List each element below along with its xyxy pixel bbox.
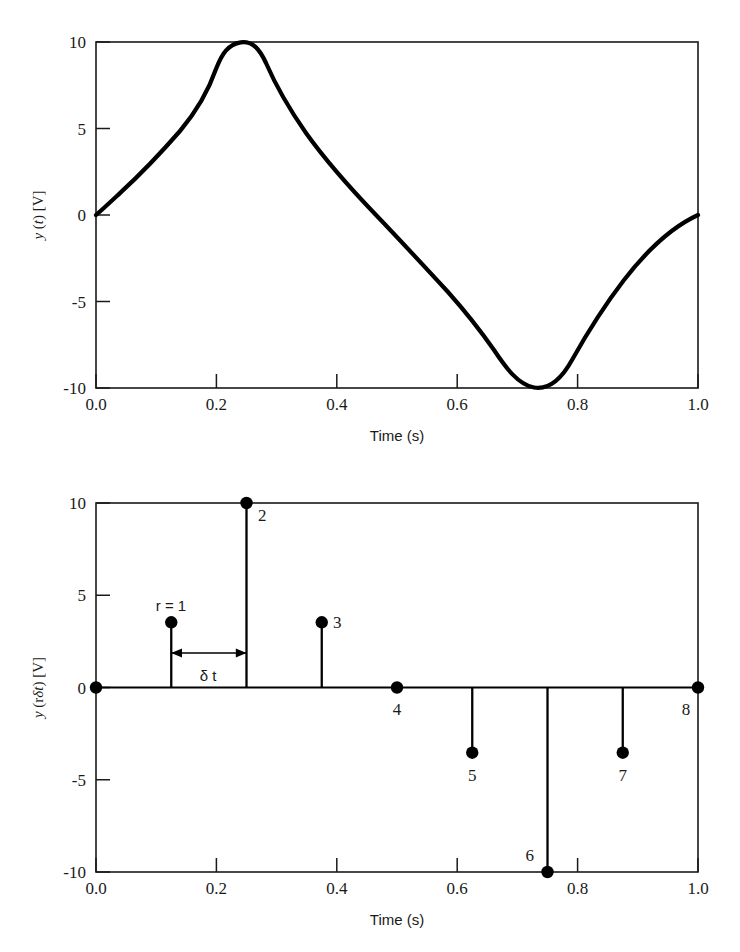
r-equals-1-label: r = 1 bbox=[156, 597, 186, 614]
svg-text:5: 5 bbox=[468, 766, 477, 785]
svg-text:0.2: 0.2 bbox=[206, 879, 227, 898]
x-tick-labels: 0.0 0.2 0.4 0.6 0.8 1.0 bbox=[85, 879, 708, 898]
svg-text:0.8: 0.8 bbox=[567, 395, 588, 414]
sample-point bbox=[165, 616, 177, 628]
y-tick-labels: 10 5 0 -5 -10 bbox=[63, 494, 86, 882]
sample-point bbox=[90, 681, 102, 693]
svg-text:0.4: 0.4 bbox=[326, 879, 348, 898]
delta-t-label: δ t bbox=[200, 667, 218, 684]
sample-point bbox=[466, 747, 478, 759]
svg-text:6: 6 bbox=[526, 846, 535, 865]
svg-text:0.0: 0.0 bbox=[85, 395, 106, 414]
svg-text:-5: -5 bbox=[72, 293, 86, 312]
x-axis-title: Time (s) bbox=[370, 911, 424, 928]
svg-text:7: 7 bbox=[619, 766, 628, 785]
sample-point bbox=[240, 497, 252, 509]
y-axis-title: y (rδt) [V] bbox=[30, 657, 47, 720]
svg-text:3: 3 bbox=[333, 613, 342, 632]
svg-text:0.2: 0.2 bbox=[206, 395, 227, 414]
sample-point bbox=[391, 681, 403, 693]
x-axis-ticks bbox=[96, 858, 698, 872]
x-axis-title: Time (s) bbox=[370, 427, 424, 444]
x-tick-labels: 0.0 0.2 0.4 0.6 0.8 1.0 bbox=[85, 395, 708, 414]
svg-text:-10: -10 bbox=[63, 379, 86, 398]
svg-text:-5: -5 bbox=[72, 771, 86, 790]
svg-text:-10: -10 bbox=[63, 863, 86, 882]
figure-panel-bottom: δ t r = 1 2 3 4 5 6 7 8 10 5 0 -5 -10 0.… bbox=[0, 476, 740, 952]
svg-text:0: 0 bbox=[78, 679, 87, 698]
svg-text:0.6: 0.6 bbox=[447, 395, 468, 414]
svg-text:2: 2 bbox=[258, 506, 267, 525]
svg-text:y (t) [V]: y (t) [V] bbox=[30, 190, 47, 241]
svg-text:0.8: 0.8 bbox=[567, 879, 588, 898]
y-axis-title: y (t) [V] bbox=[30, 190, 47, 241]
svg-text:5: 5 bbox=[78, 120, 87, 139]
svg-text:0: 0 bbox=[78, 206, 87, 225]
svg-text:10: 10 bbox=[69, 33, 86, 52]
plot-frame bbox=[96, 42, 698, 388]
svg-text:1.0: 1.0 bbox=[687, 879, 708, 898]
x-axis-ticks bbox=[96, 374, 698, 388]
svg-text:10: 10 bbox=[69, 494, 86, 513]
sample-point bbox=[316, 616, 328, 628]
y-tick-labels: 10 5 0 -5 -10 bbox=[63, 33, 86, 398]
svg-text:4: 4 bbox=[393, 700, 402, 719]
svg-text:0.0: 0.0 bbox=[85, 879, 106, 898]
sample-point bbox=[541, 866, 553, 878]
figure-panel-top: 10 5 0 -5 -10 0.0 0.2 0.4 0.6 0.8 1.0 Ti… bbox=[0, 0, 740, 476]
sine-wave-plot: 10 5 0 -5 -10 0.0 0.2 0.4 0.6 0.8 1.0 Ti… bbox=[0, 0, 740, 476]
sampled-signal-stem-plot: δ t r = 1 2 3 4 5 6 7 8 10 5 0 -5 -10 0.… bbox=[0, 476, 740, 952]
svg-text:5: 5 bbox=[78, 586, 87, 605]
sine-curve bbox=[96, 42, 698, 388]
svg-text:0.4: 0.4 bbox=[326, 395, 348, 414]
svg-text:0.6: 0.6 bbox=[447, 879, 468, 898]
delta-t-arrow bbox=[171, 649, 246, 658]
sample-point bbox=[617, 747, 629, 759]
svg-text:y (rδt) [V]: y (rδt) [V] bbox=[30, 657, 47, 720]
svg-text:8: 8 bbox=[682, 700, 691, 719]
sample-point bbox=[692, 681, 704, 693]
svg-text:1.0: 1.0 bbox=[687, 395, 708, 414]
